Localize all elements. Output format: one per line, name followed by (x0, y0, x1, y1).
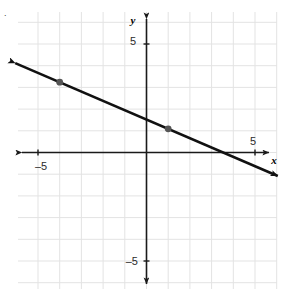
data-point (56, 79, 63, 86)
y-tick-label-minus5: –5 (126, 255, 138, 267)
y-tick-label-5: 5 (130, 35, 136, 47)
graph-canvas: y x 5 –5 5 –5 . (0, 0, 287, 308)
figure-corner-mark: . (4, 8, 7, 18)
x-tick-label-5: 5 (250, 135, 256, 147)
coordinate-plane-figure: y x 5 –5 5 –5 . (0, 0, 287, 308)
y-axis-label: y (129, 14, 136, 26)
x-axis-label: x (270, 154, 277, 166)
plot-area-background (18, 12, 277, 289)
data-point (165, 125, 172, 132)
x-tick-label-minus5: –5 (35, 160, 47, 172)
